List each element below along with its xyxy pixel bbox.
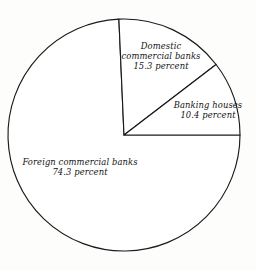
- pie-label-foreign-value: 74.3 percent: [18, 168, 142, 178]
- pie-label-foreign-commercial-banks: Foreign commercial banks 74.3 percent: [18, 158, 142, 178]
- pie-chart-graphic: [0, 0, 256, 270]
- pie-chart-figure: Domestic commercial banks 15.3 percent B…: [0, 0, 256, 270]
- pie-label-domestic-commercial-banks: Domestic commercial banks 15.3 percent: [119, 42, 203, 72]
- pie-label-domestic-value: 15.3 percent: [119, 62, 203, 72]
- pie-label-banking-houses: Banking houses 10.4 percent: [166, 101, 250, 121]
- pie-label-banking-value: 10.4 percent: [166, 111, 250, 121]
